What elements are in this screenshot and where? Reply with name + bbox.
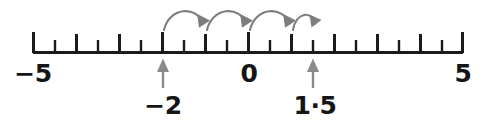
pointer-label-neg2: −2	[144, 91, 181, 120]
pointer-label-pos1p5: 1·5	[294, 91, 337, 120]
number-line-figure: −5 0 5 −2 1·5	[0, 0, 485, 120]
axis-label-zero: 0	[241, 59, 258, 88]
hop-arc-1	[164, 11, 210, 30]
hop-arc-4	[293, 15, 322, 31]
hop-arc-3	[250, 11, 296, 30]
pointer-neg2	[157, 59, 169, 89]
number-line-canvas: −5 0 5 −2 1·5	[0, 0, 485, 120]
pointer-pos1p5	[307, 59, 319, 89]
hop-arc-2	[207, 11, 253, 30]
axis-label-left-end: −5	[14, 59, 51, 88]
axis-label-right-end: 5	[455, 59, 472, 88]
